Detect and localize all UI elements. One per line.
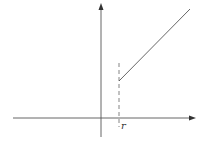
diagram-canvas [0,0,205,148]
x-axis-arrow-icon [189,116,196,121]
function-ray [119,9,190,81]
x-axis [13,116,196,121]
y-axis [99,3,104,137]
label-r: r [121,121,126,131]
y-axis-arrow-icon [99,3,104,10]
